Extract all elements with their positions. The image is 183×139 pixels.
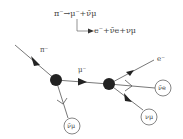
electron-label: e⁻ [157,55,165,63]
electron-line [109,60,154,84]
muon-label: μ⁻ [78,66,87,74]
neutrino-mu-label: νμ [145,113,153,121]
pion-line [15,45,56,80]
neutrino-mu-line [109,84,143,110]
pion-decay-vertex [50,74,62,86]
pion-label: π⁻ [40,46,49,54]
feynman-decay-diagram: π⁻ μ⁻ ν̄μ e⁻ ν̄e νμ [0,0,183,139]
antineutrino-e-label: ν̄e [158,84,166,92]
muon-decay-vertex [103,78,115,90]
arrow-icon [126,70,134,76]
arrow-icon [78,78,87,86]
antineutrino-mu-label: ν̄μ [67,122,75,130]
arrow-icon [31,56,40,66]
muon-line [56,78,109,86]
decay-bracket-arrow [77,19,94,34]
